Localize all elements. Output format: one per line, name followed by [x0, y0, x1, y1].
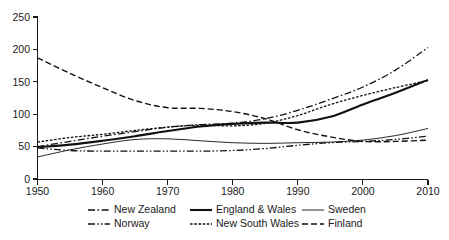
legend-item-sweden[interactable]: Sweden	[302, 203, 366, 215]
legend-item-finland[interactable]: Finland	[302, 217, 363, 229]
legend-label-norway: Norway	[114, 217, 150, 229]
legend-item-new-zealand[interactable]: New Zealand	[88, 203, 176, 215]
x-tick-label: 2010	[416, 185, 440, 197]
legend-label-england-wales: England & Wales	[216, 203, 296, 215]
legend-label-new-south-wales: New South Wales	[216, 217, 299, 229]
series-line-norway	[38, 136, 429, 151]
legend-label-new-zealand: New Zealand	[114, 203, 176, 215]
y-tick-label: 100	[12, 108, 30, 120]
y-tick-label: 50	[18, 140, 30, 152]
legend-item-norway[interactable]: Norway	[88, 217, 150, 229]
y-tick-label: 0	[24, 173, 30, 185]
x-tick-label: 1950	[26, 185, 50, 197]
legend-item-new-south-wales[interactable]: New South Wales	[190, 217, 299, 229]
y-axis-tick-marks	[33, 17, 38, 179]
x-tick-label: 1990	[286, 185, 310, 197]
x-tick-label: 1960	[91, 185, 115, 197]
x-axis-tick-marks	[38, 180, 429, 185]
legend-label-sweden: Sweden	[328, 203, 366, 215]
x-tick-label: 2000	[351, 185, 375, 197]
chart-canvas: 050100150200250 195019601970198019902000…	[0, 0, 449, 240]
y-tick-label: 150	[12, 76, 30, 88]
y-tick-label: 250	[12, 11, 30, 23]
x-axis-tick-labels: 1950196019701980199020002010	[26, 185, 440, 197]
series-line-finland	[38, 58, 429, 142]
data-series-group	[38, 47, 429, 157]
series-line-new-south-wales	[38, 81, 429, 143]
x-tick-label: 1980	[221, 185, 245, 197]
series-line-sweden	[38, 128, 429, 157]
legend-item-england-wales[interactable]: England & Wales	[190, 203, 296, 215]
x-tick-label: 1970	[156, 185, 180, 197]
legend-label-finland: Finland	[328, 217, 363, 229]
chart-legend: New ZealandEngland & WalesSwedenNorwayNe…	[88, 203, 366, 229]
y-axis-tick-labels: 050100150200250	[12, 11, 30, 185]
line-chart-figure: 050100150200250 195019601970198019902000…	[0, 0, 449, 240]
y-tick-label: 200	[12, 43, 30, 55]
series-line-new-zealand	[38, 47, 429, 146]
